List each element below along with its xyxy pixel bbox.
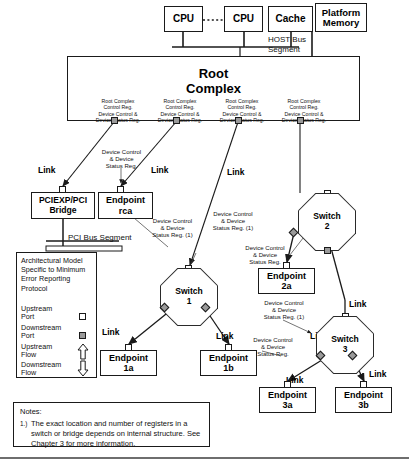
host-bus-segment-label: HOST Bus Segment (268, 35, 332, 54)
annotation-switch3-register: Device Control & Device Status Reg. (1) (253, 300, 315, 322)
pci-bus-segment-label: PCI Bus Segment (68, 233, 132, 243)
link-label-switch1: Link (227, 167, 244, 177)
upstream-port-icon (79, 313, 86, 320)
annotation-switch1-register: Device Control & Device Status Reg. (1) (200, 211, 266, 233)
endpoint-3b-box[interactable]: Endpoint 3b (335, 387, 392, 413)
endpoint-1b-box[interactable]: Endpoint 1b (200, 350, 257, 376)
down-arrow-icon (77, 360, 89, 381)
switch-1-node[interactable]: Switch 1 (160, 268, 218, 326)
pciexp-pci-bridge-box[interactable]: PCIEXP/PCI Bridge (31, 192, 95, 219)
endpoint-rca-label: Endpoint rca (106, 195, 145, 215)
endpoint-rca-box[interactable]: Endpoint rca (98, 192, 153, 219)
cpu-2-label: CPU (233, 14, 254, 25)
legend-title: Architectural Model Specific to Minimum … (21, 256, 93, 293)
root-complex-port-3[interactable] (235, 117, 242, 124)
legend-item-upstream-port: Upstream Port (21, 305, 73, 322)
root-complex-box: Root Complex Root Complex Control Reg. D… (67, 56, 360, 121)
annotation-bridge-note: Device Control & Device Status Reg. (1) (140, 218, 205, 240)
switch-1-label: Switch 1 (175, 287, 202, 306)
legend-item-downstream-flow: Downstream Flow (21, 361, 73, 378)
switch2-downstream-port-a[interactable] (289, 228, 299, 238)
platform-memory-box: Platform Memory (315, 3, 367, 32)
endpoint-1a-box[interactable]: Endpoint 1a (100, 350, 157, 376)
root-complex-port-2[interactable] (173, 117, 180, 124)
cpu-box-1: CPU (164, 6, 203, 32)
legend-item-upstream-flow: Upstream Flow (21, 343, 73, 360)
switch-2-node[interactable]: Switch 2 (298, 193, 356, 251)
annotation-bridge-endpoint: Device Control & Device Status Reg. (90, 149, 153, 171)
switch-3-node[interactable]: Switch 3 (316, 316, 374, 374)
root-complex-port-4[interactable] (297, 117, 304, 124)
cpu-box-2: CPU (224, 6, 263, 32)
endpoint-1b-label: Endpoint 1b (209, 353, 248, 373)
bridge-label: PCIEXP/PCI Bridge (39, 196, 87, 215)
endpoint-2a-box[interactable]: Endpoint 2a (258, 268, 315, 294)
endpoint-1a-label: Endpoint 1a (109, 353, 148, 373)
notes-number: 1.) (20, 420, 27, 427)
platform-memory-label: Platform Memory (322, 8, 361, 28)
legend-item-downstream-port: Downstream Port (21, 324, 73, 341)
cache-label: Cache (275, 14, 305, 25)
cpu-1-label: CPU (173, 14, 194, 25)
root-complex-port-1[interactable] (111, 117, 118, 124)
link-label-endpoint-rca: Link (151, 165, 168, 175)
endpoint-3a-label: Endpoint 3a (268, 390, 307, 410)
link-label-endpoint-1a: Link (102, 327, 119, 337)
downstream-port-icon (79, 332, 86, 339)
root-complex-title: Root Complex (68, 67, 359, 96)
cache-box: Cache (268, 6, 313, 32)
notes-box: Notes: 1.) The exact location and number… (13, 402, 210, 447)
link-label-bridge: Link (38, 165, 55, 175)
link-label-switch3: Link (349, 299, 366, 309)
bottom-divider (0, 457, 409, 459)
endpoint-3b-label: Endpoint 3b (344, 390, 383, 410)
notes-heading: Notes: (20, 407, 42, 416)
link-label-endpoint-1b: Link (216, 331, 233, 341)
notes-text: The exact location and number of registe… (31, 419, 203, 448)
diagram-canvas: CPU CPU Cache Platform Memory HOST Bus S… (0, 0, 409, 465)
link-label-endpoint-3b: Link (369, 369, 386, 379)
root-complex-register-4: Root Complex Control Reg. Device Control… (266, 98, 342, 123)
switch-2-label: Switch 2 (313, 212, 340, 231)
endpoint-2a-label: Endpoint 2a (267, 271, 306, 291)
legend-box: Architectural Model Specific to Minimum … (16, 252, 97, 378)
switch2-downstream-port-b[interactable] (324, 247, 331, 254)
endpoint-3a-box[interactable]: Endpoint 3a (259, 387, 316, 413)
